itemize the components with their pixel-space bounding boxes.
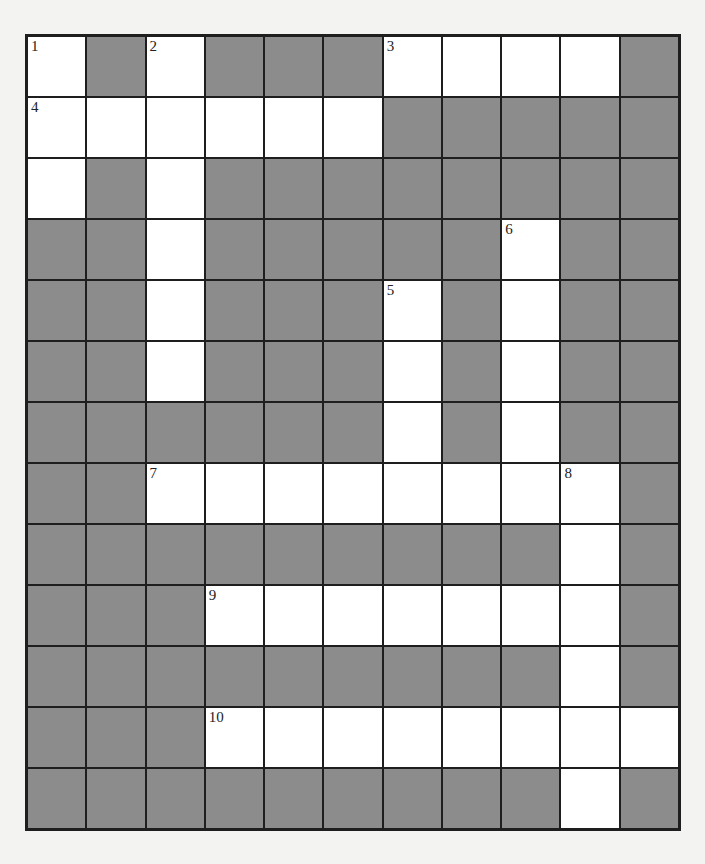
crossword-cell[interactable]: [265, 708, 322, 767]
blocked-cell: [621, 281, 678, 340]
crossword-cell[interactable]: [206, 464, 263, 523]
crossword-cell[interactable]: [206, 98, 263, 157]
crossword-cell[interactable]: [384, 342, 441, 401]
blocked-cell: [384, 525, 441, 584]
blocked-cell: [147, 586, 204, 645]
crossword-cell[interactable]: [502, 342, 559, 401]
crossword-cell[interactable]: 2: [147, 37, 204, 96]
blocked-cell: [443, 342, 500, 401]
crossword-cell[interactable]: 1: [28, 37, 85, 96]
blocked-cell: [28, 281, 85, 340]
blocked-cell: [443, 403, 500, 462]
crossword-cell[interactable]: [87, 98, 144, 157]
clue-number: 4: [31, 100, 39, 115]
blocked-cell: [206, 37, 263, 96]
blocked-cell: [324, 281, 381, 340]
blocked-cell: [87, 342, 144, 401]
crossword-cell[interactable]: [384, 464, 441, 523]
crossword-cell[interactable]: [384, 403, 441, 462]
crossword-cell[interactable]: [502, 586, 559, 645]
crossword-cell[interactable]: [502, 281, 559, 340]
crossword-cell[interactable]: [324, 586, 381, 645]
crossword-cell[interactable]: 10: [206, 708, 263, 767]
blocked-cell: [206, 647, 263, 706]
clue-number: 1: [31, 39, 39, 54]
crossword-cell[interactable]: [443, 464, 500, 523]
blocked-cell: [384, 769, 441, 828]
blocked-cell: [384, 647, 441, 706]
clue-number: 8: [564, 466, 572, 481]
clue-number: 7: [150, 466, 158, 481]
crossword-cell[interactable]: [147, 159, 204, 218]
blocked-cell: [265, 525, 322, 584]
blocked-cell: [265, 37, 322, 96]
clue-number: 5: [387, 283, 395, 298]
crossword-cell[interactable]: [265, 464, 322, 523]
blocked-cell: [206, 342, 263, 401]
blocked-cell: [87, 37, 144, 96]
blocked-cell: [324, 647, 381, 706]
blocked-cell: [28, 525, 85, 584]
blocked-cell: [561, 98, 618, 157]
clue-number: 2: [150, 39, 158, 54]
blocked-cell: [621, 98, 678, 157]
blocked-cell: [147, 403, 204, 462]
crossword-cell[interactable]: [561, 708, 618, 767]
blocked-cell: [502, 159, 559, 218]
crossword-cell[interactable]: [443, 37, 500, 96]
blocked-cell: [324, 159, 381, 218]
blocked-cell: [324, 525, 381, 584]
crossword-cell[interactable]: [265, 98, 322, 157]
blocked-cell: [265, 769, 322, 828]
crossword-cell[interactable]: [561, 769, 618, 828]
crossword-cell[interactable]: [443, 586, 500, 645]
crossword-cell[interactable]: [384, 586, 441, 645]
blocked-cell: [206, 220, 263, 279]
crossword-cell[interactable]: 9: [206, 586, 263, 645]
crossword-cell[interactable]: [28, 159, 85, 218]
crossword-cell[interactable]: [502, 708, 559, 767]
blocked-cell: [443, 281, 500, 340]
crossword-cell[interactable]: [147, 342, 204, 401]
crossword-cell[interactable]: 3: [384, 37, 441, 96]
crossword-cell[interactable]: [324, 708, 381, 767]
crossword-cell[interactable]: [147, 98, 204, 157]
crossword-cell[interactable]: 7: [147, 464, 204, 523]
crossword-cell[interactable]: [324, 464, 381, 523]
crossword-cell[interactable]: [621, 708, 678, 767]
blocked-cell: [443, 525, 500, 584]
crossword-cell[interactable]: [443, 708, 500, 767]
crossword-cell[interactable]: [265, 586, 322, 645]
blocked-cell: [621, 525, 678, 584]
blocked-cell: [87, 525, 144, 584]
crossword-cell[interactable]: [384, 708, 441, 767]
crossword-cell[interactable]: [147, 220, 204, 279]
blocked-cell: [147, 525, 204, 584]
crossword-cell[interactable]: 6: [502, 220, 559, 279]
crossword-cell[interactable]: [561, 37, 618, 96]
crossword-cell[interactable]: [561, 647, 618, 706]
blocked-cell: [265, 281, 322, 340]
blocked-cell: [502, 769, 559, 828]
blocked-cell: [265, 342, 322, 401]
blocked-cell: [502, 647, 559, 706]
crossword-cell[interactable]: [324, 98, 381, 157]
crossword-cell[interactable]: [502, 403, 559, 462]
crossword-cell[interactable]: [561, 525, 618, 584]
crossword-cell[interactable]: 4: [28, 98, 85, 157]
crossword-cell[interactable]: [561, 586, 618, 645]
crossword-cell[interactable]: [147, 281, 204, 340]
blocked-cell: [206, 403, 263, 462]
blocked-cell: [206, 159, 263, 218]
crossword-cell[interactable]: 5: [384, 281, 441, 340]
crossword-cell[interactable]: [502, 37, 559, 96]
blocked-cell: [87, 464, 144, 523]
crossword-cell[interactable]: 8: [561, 464, 618, 523]
blocked-cell: [206, 769, 263, 828]
blocked-cell: [621, 342, 678, 401]
blocked-cell: [147, 647, 204, 706]
crossword-cell[interactable]: [502, 464, 559, 523]
blocked-cell: [621, 464, 678, 523]
blocked-cell: [621, 647, 678, 706]
blocked-cell: [621, 37, 678, 96]
